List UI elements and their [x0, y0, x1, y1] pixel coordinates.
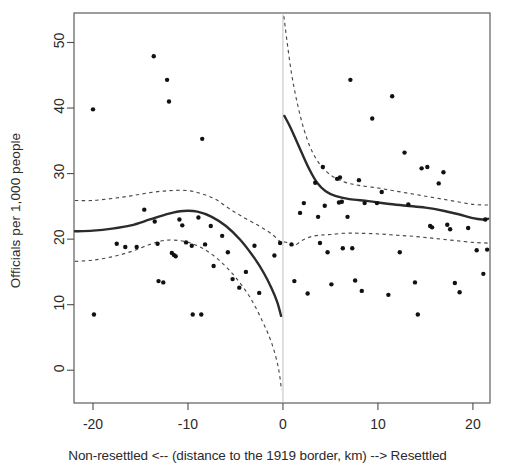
data-point	[321, 165, 325, 169]
data-point	[203, 242, 207, 246]
data-point	[167, 99, 171, 103]
data-point	[173, 254, 177, 258]
data-point	[230, 277, 234, 281]
data-point	[305, 291, 309, 295]
data-point	[375, 201, 379, 205]
data-point	[272, 253, 276, 257]
data-point	[353, 278, 357, 282]
data-point	[402, 150, 406, 154]
data-point	[325, 250, 329, 254]
data-point	[184, 240, 188, 244]
series-fit-left	[75, 211, 281, 316]
data-point	[419, 166, 423, 170]
y-tick-label-20: 20	[51, 229, 67, 245]
data-point	[398, 250, 402, 254]
y-tick-label-0: 0	[51, 364, 67, 372]
data-point	[220, 234, 224, 238]
x-tick-label--10: -10	[178, 416, 198, 432]
data-point	[237, 285, 241, 289]
data-point	[196, 215, 200, 219]
data-point	[316, 215, 320, 219]
data-point	[425, 165, 429, 169]
data-point	[323, 204, 327, 208]
scatter-plot: 01020304050-20-1001020	[0, 0, 515, 440]
data-point	[445, 223, 449, 227]
data-point	[485, 247, 489, 251]
data-point	[257, 291, 261, 295]
data-point	[350, 246, 354, 250]
data-point	[390, 94, 394, 98]
data-point	[200, 137, 204, 141]
data-point	[278, 241, 282, 245]
data-point	[437, 181, 441, 185]
data-point	[156, 279, 160, 283]
data-point	[92, 312, 96, 316]
y-tick-label-30: 30	[51, 164, 67, 180]
data-point	[209, 224, 213, 228]
data-point	[413, 280, 417, 284]
data-point	[483, 217, 487, 221]
data-point	[289, 242, 293, 246]
series-ci-lower-left	[75, 240, 282, 390]
x-tick-label--20: -20	[83, 416, 103, 432]
data-point	[153, 219, 157, 223]
figure-panel: Officials per 1,000 people 01020304050-2…	[0, 0, 515, 476]
data-point	[226, 250, 230, 254]
data-point	[211, 264, 215, 268]
data-point	[152, 54, 156, 58]
data-point	[292, 279, 296, 283]
data-point	[370, 116, 374, 120]
data-point	[340, 200, 344, 204]
data-point	[155, 242, 159, 246]
series-ci-lower-right	[284, 233, 488, 246]
data-point	[357, 178, 361, 182]
data-point	[380, 190, 384, 194]
data-point	[134, 245, 138, 249]
data-point	[115, 242, 119, 246]
data-point	[362, 201, 366, 205]
data-point	[298, 211, 302, 215]
data-point	[244, 270, 248, 274]
data-point	[123, 245, 127, 249]
data-point	[441, 170, 445, 174]
data-point	[165, 78, 169, 82]
data-point	[448, 227, 452, 231]
x-axis-caption: Non-resettled <-- (distance to the 1919 …	[0, 448, 515, 463]
data-point	[91, 107, 95, 111]
data-point	[457, 290, 461, 294]
data-point	[329, 282, 333, 286]
data-point	[318, 241, 322, 245]
y-tick-label-40: 40	[51, 98, 67, 114]
data-point	[338, 175, 342, 179]
data-point	[190, 243, 194, 247]
data-point	[191, 312, 195, 316]
data-point	[430, 225, 434, 229]
data-point	[453, 281, 457, 285]
series-fit-right	[284, 116, 488, 220]
data-point	[386, 293, 390, 297]
data-point	[466, 226, 470, 230]
series-ci-upper-left	[75, 190, 280, 241]
y-tick-label-10: 10	[51, 295, 67, 311]
data-point	[199, 312, 203, 316]
y-tick-label-50: 50	[51, 32, 67, 48]
data-point	[313, 181, 317, 185]
data-point	[180, 223, 184, 227]
x-tick-label-20: 20	[465, 416, 481, 432]
data-point	[416, 312, 420, 316]
x-tick-label-0: 0	[279, 416, 287, 432]
data-point	[360, 289, 364, 293]
data-point	[481, 272, 485, 276]
data-point	[142, 207, 146, 211]
data-point	[161, 280, 165, 284]
data-point	[348, 78, 352, 82]
data-point	[475, 248, 479, 252]
data-point	[302, 201, 306, 205]
x-tick-label-10: 10	[370, 416, 386, 432]
data-point	[341, 246, 345, 250]
data-point	[252, 243, 256, 247]
data-point	[177, 217, 181, 221]
data-point	[345, 215, 349, 219]
data-point	[406, 202, 410, 206]
